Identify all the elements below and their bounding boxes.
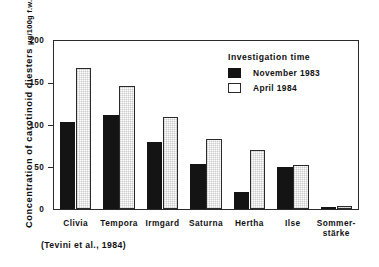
bar-april-1984: [206, 139, 222, 209]
y-axis-tick-label: 0: [4, 205, 48, 214]
legend-entry: April 1984: [228, 83, 348, 93]
bar-november-1983: [277, 167, 293, 209]
y-axis-title-text: Concentration of carotinoid diesters: [24, 48, 34, 228]
legend-entries: November 1983April 1984: [228, 68, 348, 93]
legend: Investigation time November 1983April 19…: [228, 52, 348, 98]
bar-april-1984: [76, 68, 92, 209]
x-axis-label-line: Sommer-: [302, 218, 370, 228]
y-axis-title-container: Concentration of carotinoid diesters µg/…: [4, 0, 30, 230]
legend-label: April 1984: [253, 83, 297, 93]
y-axis-title: Concentration of carotinoid diesters µg/…: [24, 0, 34, 228]
y-axis-tick-label: 150: [4, 78, 48, 87]
x-axis-label-line: stärke: [302, 228, 370, 238]
figure-carotinoid-diesters: Concentration of carotinoid diesters µg/…: [0, 0, 379, 267]
legend-title: Investigation time: [228, 52, 348, 62]
citation: (Tevini et al., 1984): [41, 240, 126, 250]
bar-april-1984: [119, 86, 135, 209]
bar-group: [103, 41, 135, 209]
bar-april-1984: [163, 117, 179, 209]
y-axis-tick-label: 50: [4, 163, 48, 172]
y-axis-tick-label: 100: [4, 121, 48, 130]
bar-group: [147, 41, 179, 209]
bar-november-1983: [190, 164, 206, 209]
legend-swatch-november-1983: [228, 68, 241, 78]
legend-swatch-april-1984: [228, 83, 241, 93]
bar-group: [190, 41, 222, 209]
bar-november-1983: [60, 122, 76, 209]
bar-april-1984: [293, 165, 309, 209]
bar-november-1983: [321, 207, 337, 209]
bar-november-1983: [147, 142, 163, 209]
bar-group: [60, 41, 92, 209]
bar-november-1983: [234, 192, 250, 209]
bar-november-1983: [103, 115, 119, 209]
bar-april-1984: [250, 150, 266, 209]
x-axis-label: Sommer-stärke: [302, 218, 370, 238]
bar-april-1984: [337, 206, 353, 209]
y-axis-tick-label: 200: [4, 36, 48, 45]
legend-label: November 1983: [253, 68, 320, 78]
legend-entry: November 1983: [228, 68, 348, 78]
